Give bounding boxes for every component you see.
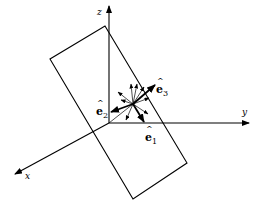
vector-e1 [133,104,144,122]
e2-label: ^e2 [96,106,108,120]
e1-hat: ^ [146,125,153,133]
position-line [109,104,133,123]
e3-hat: ^ [157,77,164,85]
tilted-plane [50,26,187,199]
x-axis-label: x [25,172,30,181]
z-axis-label: z [97,8,102,17]
x-axis [15,123,109,174]
e3-label: ^e3 [156,84,168,98]
e1-label: ^e1 [145,132,157,146]
diagram-canvas: z y x ^e2 ^e1 ^e3 [0,0,261,208]
y-axis-label: y [242,108,247,117]
e2-hat: ^ [97,99,104,107]
thin-arrow-cluster [118,84,149,120]
diagram-svg [0,0,261,208]
